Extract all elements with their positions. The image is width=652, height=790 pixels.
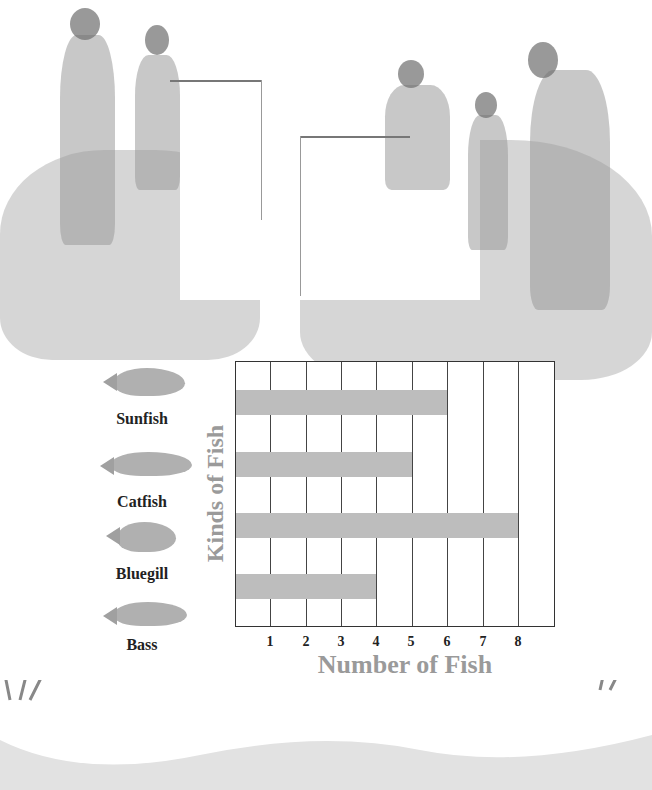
- x-axis-label: Number of Fish: [235, 650, 575, 680]
- fishing-rod-boy: [300, 136, 410, 138]
- x-tick-2: 2: [296, 634, 316, 650]
- fish-label-sunfish: Sunfish: [92, 410, 192, 428]
- gridline-7: [483, 362, 484, 626]
- fishing-line-boy: [300, 136, 301, 296]
- bass-icon: [115, 602, 187, 626]
- bar-sunfish: [236, 390, 447, 415]
- gridline-6: [447, 362, 448, 626]
- woman-figure: [60, 35, 115, 245]
- girl-figure: [135, 55, 180, 190]
- catfish-icon: [112, 452, 192, 476]
- fishing-rod-girl: [170, 80, 262, 82]
- boy-head: [398, 60, 424, 88]
- fish-label-bluegill: Bluegill: [92, 565, 192, 583]
- bar-catfish: [236, 452, 412, 477]
- x-tick-6: 6: [437, 634, 457, 650]
- fish-label-catfish: Catfish: [92, 493, 192, 511]
- bar-bass: [236, 574, 376, 599]
- x-tick-3: 3: [331, 634, 351, 650]
- x-tick-5: 5: [401, 634, 421, 650]
- y-axis-label: Kinds of Fish: [202, 369, 229, 619]
- fish-label-bass: Bass: [92, 636, 192, 654]
- fishing-line-girl: [261, 80, 262, 220]
- bar-chart: [235, 361, 555, 627]
- x-tick-8: 8: [508, 634, 528, 650]
- bar-bluegill: [236, 513, 518, 538]
- fishing-illustration: [0, 0, 652, 380]
- girl-head: [145, 25, 169, 55]
- sunfish-icon: [115, 368, 185, 396]
- grass-border-illustration: [0, 680, 652, 790]
- x-tick-4: 4: [366, 634, 386, 650]
- man-head: [528, 42, 558, 78]
- x-tick-7: 7: [473, 634, 493, 650]
- man-figure: [530, 70, 610, 310]
- gridline-8: [518, 362, 519, 626]
- bluegill-icon: [118, 522, 176, 552]
- x-tick-1: 1: [260, 634, 280, 650]
- child-figure: [468, 115, 508, 250]
- child-head: [475, 92, 497, 118]
- woman-head: [70, 8, 100, 40]
